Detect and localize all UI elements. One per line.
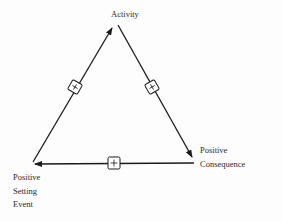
plus-sign-box-bottom xyxy=(108,157,120,169)
triangle-diagram: Activity Positive Consequence Positive S… xyxy=(0,0,282,222)
plus-sign-box-right xyxy=(144,79,159,94)
edge-setting-to-activity xyxy=(33,28,112,162)
node-label-activity: Activity xyxy=(111,8,139,22)
label-line: Positive xyxy=(13,171,40,185)
label-line: Positive xyxy=(200,144,245,158)
node-label-setting-event: Positive Setting Event xyxy=(13,171,40,212)
label-line: Event xyxy=(13,198,40,212)
label-line: Setting xyxy=(13,185,40,199)
label-line: Consequence xyxy=(200,158,245,172)
node-label-consequence: Positive Consequence xyxy=(200,144,245,171)
diagram-graphics xyxy=(0,0,282,222)
